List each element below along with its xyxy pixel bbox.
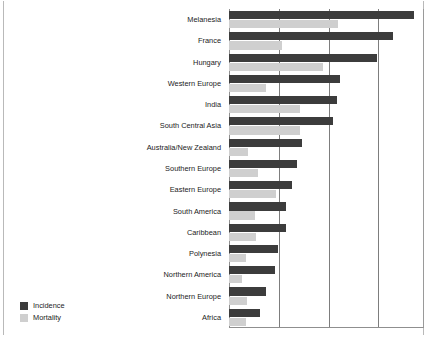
bar-group <box>229 115 424 136</box>
category-label: Southern Europe <box>165 164 221 173</box>
bar-mortality <box>229 105 300 113</box>
bar-mortality <box>229 297 247 305</box>
category-label: Western Europe <box>168 79 221 88</box>
legend-item: Mortality <box>20 313 65 322</box>
category-label: Northern Europe <box>166 292 221 301</box>
category-label: Africa <box>202 313 221 322</box>
bar-incidence <box>229 11 414 19</box>
bar-group <box>229 94 424 115</box>
bar-incidence <box>229 224 286 232</box>
bar-incidence <box>229 245 278 253</box>
bar-group <box>229 73 424 94</box>
bar-mortality <box>229 169 258 177</box>
bar-group <box>229 222 424 243</box>
bar-group <box>229 243 424 264</box>
legend-swatch-icon <box>20 314 28 322</box>
bar-mortality <box>229 275 242 283</box>
bar-incidence <box>229 181 292 189</box>
category-label: France <box>198 36 221 45</box>
bar-incidence <box>229 309 260 317</box>
category-label: South Central Asia <box>160 121 221 130</box>
bar-mortality <box>229 254 246 262</box>
bar-mortality <box>229 63 323 71</box>
bar-mortality <box>229 41 282 49</box>
category-label: India <box>205 100 221 109</box>
category-axis-labels: MelanesiaFranceHungaryWestern EuropeIndi… <box>4 9 225 328</box>
bar-group <box>229 200 424 221</box>
chart-legend: IncidenceMortality <box>20 301 65 325</box>
category-label: Northern America <box>163 270 221 279</box>
bar-incidence <box>229 117 333 125</box>
category-label: Polynesia <box>189 249 221 258</box>
legend-label: Mortality <box>33 313 61 322</box>
chart-frame: MelanesiaFranceHungaryWestern EuropeIndi… <box>3 1 424 335</box>
bar-group <box>229 285 424 306</box>
bar-incidence <box>229 287 266 295</box>
bar-incidence <box>229 202 286 210</box>
bar-mortality <box>229 20 338 28</box>
bar-group <box>229 307 424 328</box>
legend-item: Incidence <box>20 301 65 310</box>
legend-swatch-icon <box>20 302 28 310</box>
bar-mortality <box>229 126 300 134</box>
bar-mortality <box>229 190 276 198</box>
bar-incidence <box>229 32 393 40</box>
bar-incidence <box>229 54 377 62</box>
category-label: Melanesia <box>187 15 221 24</box>
bar-mortality <box>229 148 248 156</box>
bar-mortality <box>229 233 256 241</box>
legend-label: Incidence <box>33 301 65 310</box>
category-label: Hungary <box>193 58 221 67</box>
bar-group <box>229 52 424 73</box>
bar-mortality <box>229 84 266 92</box>
bar-incidence <box>229 266 275 274</box>
bar-group <box>229 137 424 158</box>
bars-container <box>229 9 424 328</box>
bar-incidence <box>229 96 337 104</box>
bar-incidence <box>229 75 340 83</box>
category-label: Eastern Europe <box>170 185 221 194</box>
bar-group <box>229 158 424 179</box>
bar-incidence <box>229 139 302 147</box>
bar-group <box>229 30 424 51</box>
bar-mortality <box>229 211 255 219</box>
category-label: Caribbean <box>187 228 221 237</box>
bar-mortality <box>229 318 246 326</box>
category-label: South America <box>173 207 221 216</box>
bar-incidence <box>229 160 297 168</box>
bar-group <box>229 179 424 200</box>
bar-group <box>229 264 424 285</box>
bar-group <box>229 9 424 30</box>
category-label: Australia/New Zealand <box>147 143 221 152</box>
